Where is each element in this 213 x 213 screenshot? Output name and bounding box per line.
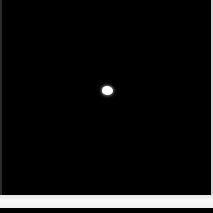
light-strip	[0, 195, 213, 208]
bottom-black-bar	[0, 208, 213, 213]
image-frame	[0, 0, 213, 213]
bright-spot	[102, 86, 113, 95]
dark-image-area	[0, 0, 213, 195]
